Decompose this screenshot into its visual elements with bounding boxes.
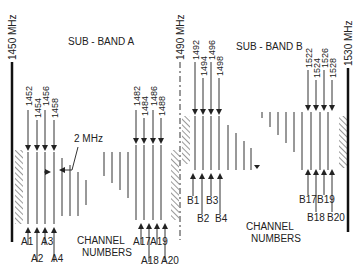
freq-label: 1528 xyxy=(328,58,338,78)
channel-label: A17 xyxy=(133,236,151,247)
channel-label: B3 xyxy=(206,195,219,206)
spacing-label: 2 MHz xyxy=(74,133,103,144)
channel-label: A20 xyxy=(161,255,179,266)
subband-a-title: SUB - BAND A xyxy=(68,36,134,47)
guard-band-hatch xyxy=(15,150,23,224)
edge-label-1490: 1490 MHz xyxy=(175,14,186,60)
channel-label: A18 xyxy=(141,255,159,266)
channel-label: B17 xyxy=(299,194,317,205)
channel-plan-diagram: 1450 MHz 1490 MHz 1530 MHz 1452 1454 145… xyxy=(0,0,363,277)
channel-caption-b-line2: NUMBERS xyxy=(251,233,301,244)
guard-band-hatch xyxy=(339,116,347,168)
subband-a-start-lines xyxy=(28,145,161,224)
subband-b-title: SUB - BAND B xyxy=(236,41,303,52)
channel-caption-a-line1: CHANNEL xyxy=(77,235,125,246)
channel-label: B4 xyxy=(215,213,228,224)
freq-label: 1488 xyxy=(157,96,167,116)
channel-label: A1 xyxy=(21,236,34,247)
channel-label: A19 xyxy=(150,236,168,247)
edge-label-1450: 1450 MHz xyxy=(7,14,18,60)
channel-caption-a-line2: NUMBERS xyxy=(82,247,132,258)
channel-label: A2 xyxy=(31,253,44,264)
freq-label: 1498 xyxy=(215,56,225,76)
guard-band-hatch xyxy=(171,150,179,220)
spacing-indicator xyxy=(44,147,78,172)
channel-label: B1 xyxy=(187,195,200,206)
channel-label: A3 xyxy=(41,236,54,247)
diagram-svg: 1450 MHz 1490 MHz 1530 MHz 1452 1454 145… xyxy=(0,0,363,277)
channel-label: B19 xyxy=(317,194,335,205)
freq-label: 1458 xyxy=(50,98,60,118)
channel-label: B2 xyxy=(197,213,210,224)
guard-band-hatch xyxy=(182,116,190,164)
subband-b-bottom-arrows xyxy=(193,172,332,214)
subband-b-lines xyxy=(195,112,328,170)
channel-label: A4 xyxy=(51,253,64,264)
edge-label-1530: 1530 MHz xyxy=(343,20,354,66)
channel-label: B20 xyxy=(327,212,345,223)
channel-label: B18 xyxy=(307,212,325,223)
channel-caption-b-line1: CHANNEL xyxy=(246,221,294,232)
small-marker-icon xyxy=(254,165,260,169)
